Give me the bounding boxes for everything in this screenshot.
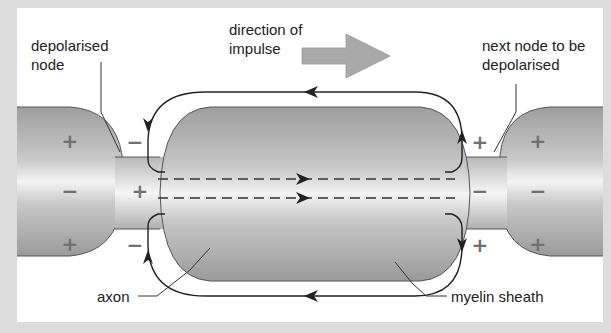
charge-outer-left-top: +: [62, 129, 79, 153]
label-next-node: next node to be depolarised: [482, 36, 585, 74]
label-myelin-sheath: myelin sheath: [451, 287, 544, 306]
charge-outer-right-top: +: [530, 129, 547, 153]
label-line: impulse: [229, 39, 302, 58]
charge-node-left-top: −: [127, 130, 144, 154]
label-direction-of-impulse: direction of impulse: [229, 20, 302, 58]
charge-outer-left-bottom: +: [62, 232, 79, 256]
label-axon: axon: [97, 287, 130, 306]
label-line: direction of: [229, 20, 302, 39]
label-line: node: [31, 55, 109, 74]
charge-node-right-inner: −: [472, 179, 489, 203]
charge-node-left-bottom: −: [127, 233, 144, 257]
charge-outer-right-bottom: +: [530, 232, 547, 256]
label-depolarised-node: depolarised node: [31, 36, 109, 74]
label-line: next node to be: [482, 36, 585, 55]
charge-node-left-inner: +: [132, 179, 149, 203]
charge-node-right-bottom: +: [472, 233, 489, 257]
label-line: depolarised: [482, 55, 585, 74]
right-myelin-segment: [500, 107, 603, 256]
central-myelin-sheath: [160, 107, 470, 281]
charge-inner-right: −: [530, 179, 547, 203]
charge-inner-left: −: [62, 179, 79, 203]
direction-arrow-icon: [302, 34, 390, 78]
charge-node-right-top: +: [472, 130, 489, 154]
label-line: depolarised: [31, 36, 109, 55]
